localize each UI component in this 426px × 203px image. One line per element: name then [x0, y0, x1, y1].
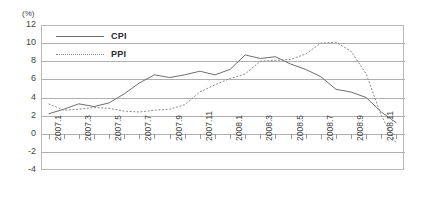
x-axis-label: 2007.3 — [83, 115, 93, 141]
y-axis-tick-4: 4 — [10, 93, 36, 102]
x-axis-label: 2008.11 — [385, 111, 395, 141]
x-axis-label: 2007.7 — [143, 115, 153, 141]
legend-swatch-cpi — [56, 36, 104, 37]
data-series-layer — [41, 25, 404, 170]
x-axis-label: 2007.5 — [113, 115, 123, 141]
y-axis-tick-12: 12 — [10, 20, 36, 29]
y-axis-tick-0: 0 — [10, 129, 36, 138]
x-axis-label: 2008.9 — [355, 115, 365, 141]
y-axis-tick-neg4: -4 — [10, 165, 36, 174]
legend-item-cpi: CPI — [56, 31, 127, 41]
x-axis-label: 2007.1 — [53, 115, 63, 141]
y-axis-unit-label: (%) — [22, 9, 34, 18]
x-axis-label: 2007.11 — [204, 111, 214, 141]
x-axis-label: 2008.3 — [264, 115, 274, 141]
y-axis-tick-8: 8 — [10, 56, 36, 65]
legend-swatch-ppi — [56, 54, 104, 55]
x-axis-label: 2008.1 — [234, 115, 244, 141]
x-axis-label: 2007.9 — [174, 115, 184, 141]
x-axis-label: 2008.7 — [325, 115, 335, 141]
series-line-cpi — [49, 55, 397, 123]
legend-item-ppi: PPI — [56, 49, 126, 59]
legend-label-cpi: CPI — [111, 31, 127, 41]
y-axis-tick-10: 10 — [10, 38, 36, 47]
legend-label-ppi: PPI — [111, 49, 126, 59]
cpi-ppi-line-chart: (%) 121086420-2-4 CPI PPI 2007.12007.320… — [0, 0, 426, 203]
y-axis-tick-2: 2 — [10, 111, 36, 120]
y-axis-tick-neg2: -2 — [10, 147, 36, 156]
x-axis-label: 2008.5 — [295, 115, 305, 141]
y-axis-tick-6: 6 — [10, 74, 36, 83]
